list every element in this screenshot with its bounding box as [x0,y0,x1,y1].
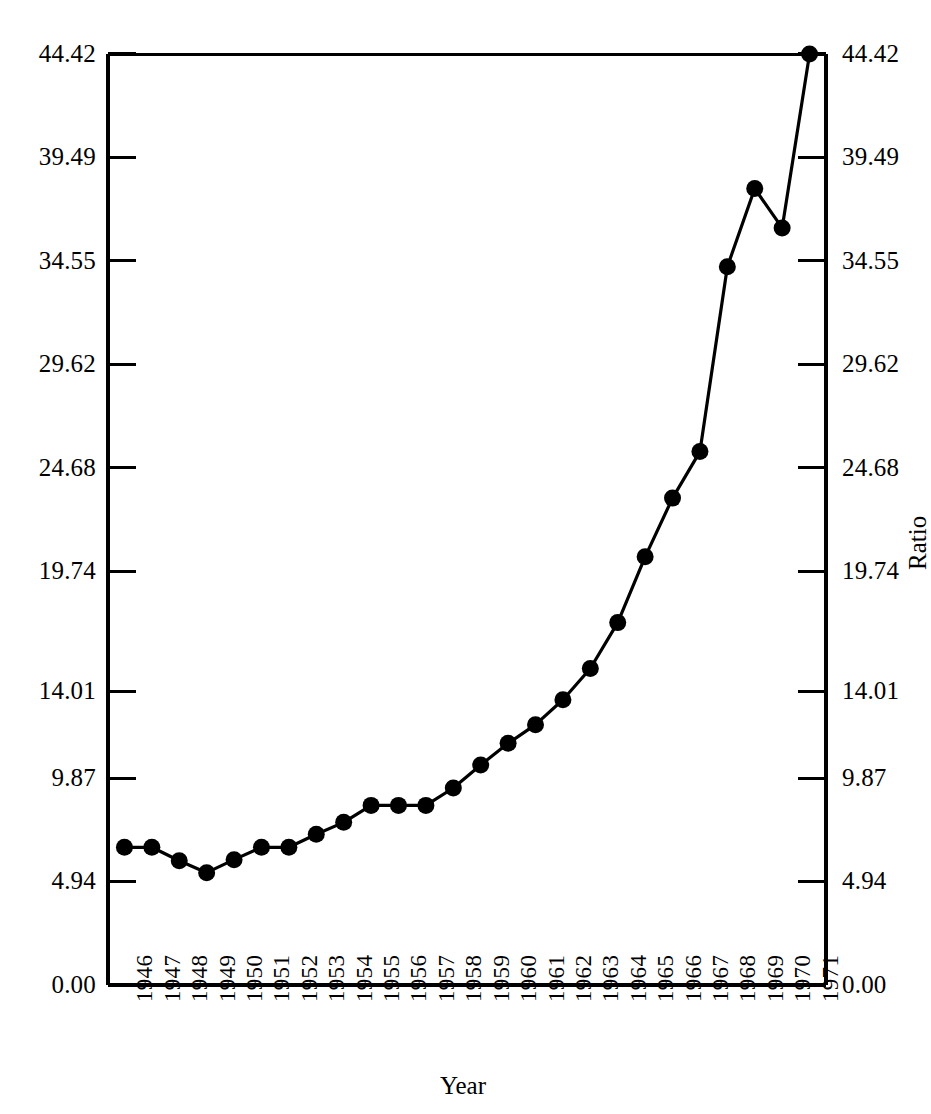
y-tick-label-right: 34.55 [842,248,931,273]
data-point-marker [774,219,791,236]
y-tick-label-right: 29.62 [842,351,931,376]
x-tick-label: 1970 [791,955,814,1002]
data-point-marker [171,852,188,869]
data-point-marker [801,46,818,63]
data-point-marker [308,826,325,843]
x-tick-label: 1951 [270,955,293,1002]
x-tick-label: 1963 [599,955,622,1002]
data-point-marker [472,756,489,773]
data-markers [116,46,818,882]
x-tick-label: 1960 [517,955,540,1002]
x-tick-label: 1965 [654,955,677,1002]
data-point-marker [527,716,544,733]
x-tick-label: 1956 [407,955,430,1002]
y-tick-label-right: 39.49 [842,144,931,169]
y-tick-label-right: 44.42 [842,41,931,66]
x-axis-title: Year [0,1073,926,1098]
data-point-marker [198,864,215,881]
data-point-marker [637,548,654,565]
y-tick-label-right: 14.01 [842,678,931,703]
y-tick-label-left: 34.55 [0,248,96,273]
data-point-marker [500,735,517,752]
data-point-marker [253,839,270,856]
y-tick-label-left: 4.94 [0,868,96,893]
data-point-marker [116,839,133,856]
data-point-marker [746,180,763,197]
x-tick-label: 1952 [298,955,321,1002]
x-tick-label: 1946 [133,955,156,1002]
x-tick-label: 1962 [572,955,595,1002]
data-point-marker [582,660,599,677]
x-tick-label: 1955 [380,955,403,1002]
x-tick-label: 1964 [627,955,650,1002]
data-point-marker [554,691,571,708]
data-point-marker [280,839,297,856]
x-tick-label: 1958 [462,955,485,1002]
x-tick-label: 1959 [490,955,513,1002]
x-tick-label: 1953 [325,955,348,1002]
x-tick-label: 1954 [353,955,376,1002]
y-tick-label-right: 24.68 [842,455,931,480]
y-tick-label-right: 9.87 [842,765,931,790]
y-axis-title: Ratio [905,516,930,570]
y-tick-label-right: 4.94 [842,868,931,893]
x-tick-label: 1950 [243,955,266,1002]
x-tick-label: 1969 [764,955,787,1002]
y-tick-label-left: 9.87 [0,765,96,790]
axis-ticks [108,54,826,985]
y-tick-label-left: 19.74 [0,558,96,583]
data-line [124,54,809,873]
data-point-marker [719,258,736,275]
x-tick-label: 1949 [216,955,239,1002]
data-point-marker [226,851,243,868]
x-tick-label: 1961 [545,955,568,1002]
data-point-marker [363,797,380,814]
x-tick-label: 1948 [188,955,211,1002]
data-point-marker [691,443,708,460]
y-tick-label-left: 29.62 [0,351,96,376]
x-tick-label: 1971 [819,955,842,1002]
x-tick-label: 1967 [709,955,732,1002]
x-tick-label: 1947 [161,955,184,1002]
y-tick-label-left: 44.42 [0,41,96,66]
data-point-marker [609,614,626,631]
y-tick-label-right: 0.00 [842,972,931,997]
x-tick-label: 1957 [435,955,458,1002]
data-point-marker [143,839,160,856]
axis-frame [108,54,826,985]
y-tick-label-left: 14.01 [0,678,96,703]
x-tick-label: 1966 [682,955,705,1002]
y-tick-label-left: 39.49 [0,144,96,169]
x-tick-label: 1968 [736,955,759,1002]
data-point-marker [664,490,681,507]
data-point-marker [390,797,407,814]
y-tick-label-left: 24.68 [0,455,96,480]
data-point-marker [445,779,462,796]
data-point-marker [335,814,352,831]
y-tick-label-left: 0.00 [0,972,96,997]
data-point-marker [417,797,434,814]
series-line-ratio [124,54,809,873]
